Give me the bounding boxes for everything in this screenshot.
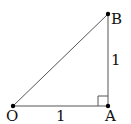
length-label-OA: 1 [56,107,66,124]
segment-OB [13,14,108,106]
triangle-diagram: O A B 1 1 [0,0,131,124]
label-A: A [104,107,116,124]
label-B: B [111,10,122,28]
point-B [106,12,110,16]
length-label-AB: 1 [111,51,121,69]
label-O: O [6,107,18,124]
